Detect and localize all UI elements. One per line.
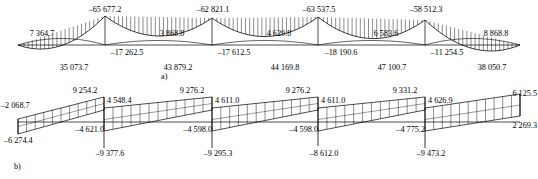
shear-label-support4-left-low: –4 598.0	[289, 125, 318, 134]
moment-label-support4-peak: –63 537.5	[303, 5, 336, 14]
moment-label-span5-right: 8 868.8	[484, 29, 509, 38]
moment-label-support2-inner: –17 262.5	[111, 48, 144, 57]
shear-label-support5-above: 9 331.2	[393, 86, 418, 95]
moment-label-support2-peak: –65 677.2	[89, 5, 122, 14]
shear-label-support2-right: 4 548.4	[107, 96, 132, 105]
shear-label-left-top: –2 068.7	[1, 101, 30, 110]
panel-tag-b: b)	[14, 162, 21, 171]
shear-label-left-bottom: –6 274.4	[4, 136, 33, 145]
moment-label-span4-mid: 6 583.6	[374, 29, 399, 38]
shear-label-support3-below: –9 295.3	[204, 149, 233, 158]
moment-label-span2-sag: 43 879.2	[164, 63, 193, 72]
shear-label-support3-right: 4 611.0	[215, 96, 239, 105]
shear-label-support2-left-low: –4 621.0	[75, 125, 104, 134]
moment-label-span1-left: 7 364.7	[30, 29, 55, 38]
shear-label-support4-above: 9 276.2	[286, 86, 311, 95]
shear-label-right-top: 6 125.5	[512, 89, 537, 98]
moment-label-span1-sag: 35 073.7	[60, 63, 89, 72]
moment-label-span4-sag: 47 100.7	[378, 63, 407, 72]
moment-label-span2-mid: 3 868.8	[160, 29, 185, 38]
shear-label-support3-left-low: –4 598.0	[183, 125, 212, 134]
shear-label-support5-left-low: –4 775.2	[396, 125, 425, 134]
shear-label-support2-below: –9 377.6	[96, 149, 125, 158]
moment-label-support3-inner: –17 612.5	[218, 48, 251, 57]
shear-label-support5-right: 4 626.9	[428, 96, 453, 105]
shear-label-support5-below: –9 473.2	[417, 149, 446, 158]
shear-label-support4-below: –8 612.0	[310, 149, 339, 158]
moment-label-span3-sag: 44 169.8	[271, 63, 300, 72]
shear-label-support2-above: 9 254.2	[73, 86, 98, 95]
moment-label-span3-mid: 4 629.8	[267, 29, 292, 38]
moment-label-support3-peak: –62 821.1	[197, 5, 230, 14]
structural-diagram-figure: 7 364.7 35 073.7 –65 677.2 –17 262.5 3 8…	[0, 0, 538, 179]
moment-label-support5-inner: –11 254.5	[431, 48, 463, 57]
moment-label-support4-inner: –18 190.6	[325, 48, 358, 57]
panel-tag-a: a)	[161, 72, 167, 81]
moment-label-support5-peak: –58 512.3	[410, 5, 443, 14]
shear-label-support4-right: 4 611.0	[321, 96, 345, 105]
moment-label-span5-sag: 38 050.7	[478, 63, 507, 72]
shear-label-right-bottom: 2 269.3	[512, 121, 537, 130]
shear-label-support3-above: 9 276.2	[180, 86, 205, 95]
